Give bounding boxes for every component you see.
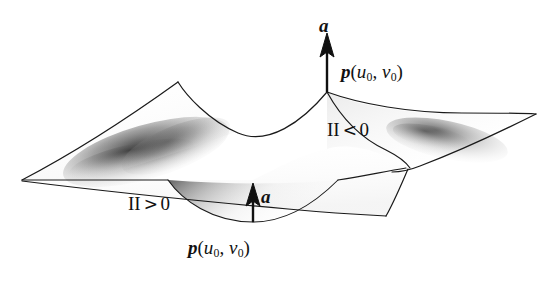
figure-container: a p(u0, v0) a p(u0, v0) II<0 II>0 [0, 0, 554, 281]
point-v-sub-top: 0 [391, 71, 397, 84]
point-comma-top: , [372, 61, 382, 82]
point-comma-bottom: , [219, 237, 229, 258]
normal-vector-label-top: a [319, 16, 329, 35]
point-v-sub-bottom: 0 [238, 247, 244, 260]
point-label-bottom: p(u0, v0) [188, 238, 250, 257]
second-form-value-negative: 0 [359, 119, 369, 140]
point-u-bottom: u [204, 237, 214, 258]
point-v-bottom: v [229, 237, 237, 258]
point-v-top: v [382, 61, 390, 82]
second-form-relation-negative: < [343, 120, 358, 140]
second-fundamental-form-negative-label: II<0 [327, 120, 369, 139]
second-fundamental-form-positive-label: II>0 [128, 194, 170, 213]
point-u-top: u [357, 61, 367, 82]
point-symbol-bottom: p [188, 237, 198, 258]
second-form-numeral-negative: II [327, 119, 340, 140]
point-u-sub-bottom: 0 [214, 247, 220, 260]
saddle-surface-drawing [0, 0, 554, 281]
second-form-relation-positive: > [144, 194, 159, 214]
point-close-paren-bottom: ) [244, 237, 250, 258]
point-label-top: p(u0, v0) [341, 62, 403, 81]
point-symbol-top: p [341, 61, 351, 82]
second-form-numeral-positive: II [128, 193, 141, 214]
point-u-sub-top: 0 [367, 71, 373, 84]
point-close-paren-top: ) [397, 61, 403, 82]
normal-vector-label-bottom: a [261, 187, 271, 206]
second-form-value-positive: 0 [160, 193, 170, 214]
normal-arrow-top [320, 33, 334, 92]
